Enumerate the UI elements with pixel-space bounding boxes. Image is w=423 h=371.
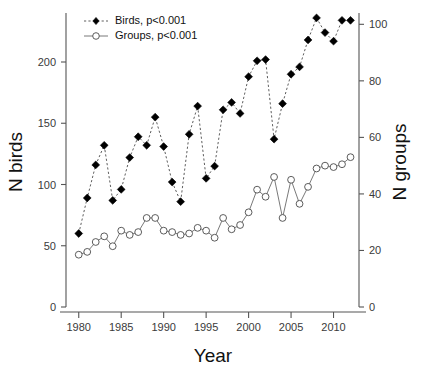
- data-point-birds: [279, 100, 287, 108]
- data-point-birds: [287, 70, 295, 78]
- data-point-groups: [126, 232, 133, 239]
- data-point-groups: [330, 164, 337, 171]
- data-point-birds: [100, 141, 108, 149]
- series-path-birds: [79, 18, 351, 234]
- data-point-groups: [237, 222, 244, 229]
- y-axis-right-tick-label: 0: [369, 301, 375, 313]
- data-point-groups: [220, 215, 227, 222]
- data-point-groups: [118, 227, 125, 234]
- y-axis-right-tick-label: 80: [369, 75, 381, 87]
- data-point-birds: [185, 130, 193, 138]
- x-axis-title: Year: [194, 345, 233, 366]
- data-point-birds: [321, 29, 329, 37]
- data-point-groups: [305, 183, 312, 190]
- y-axis-right-tick-label: 60: [369, 131, 381, 143]
- y-axis-left-ticks: 050100150200: [38, 56, 66, 313]
- legend-label-groups: Groups, p<0.001: [115, 29, 197, 41]
- data-point-birds: [211, 162, 219, 170]
- data-point-groups: [143, 215, 150, 222]
- data-point-birds: [126, 154, 134, 162]
- data-point-groups: [109, 243, 116, 250]
- data-point-groups: [194, 224, 201, 231]
- x-axis-tick-label: 2010: [321, 321, 345, 333]
- data-point-groups: [186, 230, 193, 237]
- data-point-groups: [322, 162, 329, 169]
- data-point-groups: [169, 229, 176, 236]
- data-point-groups: [296, 200, 303, 207]
- legend-entry-birds: Birds, p<0.001: [84, 14, 186, 26]
- x-axis-tick-label: 1990: [151, 321, 175, 333]
- data-point-birds: [270, 135, 278, 143]
- chart-figure: 050100150200 020406080100 19801985199019…: [0, 0, 423, 371]
- legend-entry-groups: Groups, p<0.001: [84, 29, 197, 41]
- data-point-birds: [219, 106, 227, 114]
- data-point-birds: [202, 174, 210, 182]
- data-point-birds: [347, 16, 355, 24]
- x-axis-ticks: 1980198519901995200020052010: [66, 312, 345, 333]
- data-point-groups: [101, 233, 108, 240]
- data-point-birds: [194, 102, 202, 110]
- data-point-groups: [177, 232, 184, 239]
- data-point-birds: [151, 113, 159, 121]
- x-axis-tick-label: 1985: [109, 321, 133, 333]
- data-point-groups: [84, 248, 91, 255]
- data-point-groups: [152, 215, 159, 222]
- data-point-groups: [228, 226, 235, 233]
- y-axis-left-tick-label: 0: [50, 301, 56, 313]
- data-point-birds: [330, 37, 338, 45]
- data-point-birds: [304, 36, 312, 44]
- data-point-groups: [347, 154, 354, 161]
- data-point-birds: [177, 198, 185, 206]
- data-point-birds: [338, 16, 346, 24]
- chart-plot-area: 050100150200 020406080100 19801985199019…: [0, 0, 423, 371]
- y-axis-right-tick-label: 40: [369, 188, 381, 200]
- y-axis-right-ticks: 020406080100: [359, 18, 387, 313]
- data-point-groups: [254, 186, 261, 193]
- y-axis-left-tick-label: 150: [38, 117, 56, 129]
- data-point-groups: [339, 161, 346, 168]
- data-point-groups: [279, 215, 286, 222]
- x-axis-tick-label: 2000: [236, 321, 260, 333]
- data-point-birds: [109, 197, 117, 205]
- data-point-birds: [75, 230, 83, 238]
- y-axis-right-title: N groups: [389, 123, 410, 200]
- data-point-birds: [92, 161, 100, 169]
- y-axis-left-title: N birds: [5, 132, 26, 192]
- y-axis-right-tick-label: 20: [369, 244, 381, 256]
- series-markers-birds: [75, 14, 355, 237]
- y-axis-left-tick-label: 200: [38, 56, 56, 68]
- data-point-groups: [75, 251, 82, 258]
- data-point-groups: [92, 239, 99, 246]
- data-point-groups: [211, 234, 218, 241]
- y-axis-left-tick-label: 50: [44, 240, 56, 252]
- data-point-groups: [135, 229, 142, 236]
- data-point-groups: [203, 227, 210, 234]
- data-point-birds: [245, 73, 253, 81]
- data-point-birds: [117, 186, 125, 194]
- data-point-birds: [160, 143, 168, 151]
- y-axis-right-tick-label: 100: [369, 18, 387, 30]
- x-axis-tick-label: 2005: [279, 321, 303, 333]
- series-line-birds: [79, 18, 351, 234]
- x-axis-tick-label: 1995: [194, 321, 218, 333]
- legend-swatch-marker-groups: [93, 33, 100, 40]
- data-point-birds: [253, 57, 261, 65]
- data-point-groups: [262, 193, 269, 200]
- data-point-birds: [228, 99, 236, 107]
- y-axis-left-tick-label: 100: [38, 179, 56, 191]
- legend-swatch-marker-birds: [93, 17, 99, 24]
- data-point-birds: [313, 14, 321, 22]
- legend-label-birds: Birds, p<0.001: [115, 14, 186, 26]
- data-point-birds: [83, 194, 91, 202]
- chart-legend: Birds, p<0.001 Groups, p<0.001: [84, 14, 197, 41]
- x-axis-tick-label: 1980: [66, 321, 90, 333]
- data-point-groups: [288, 176, 295, 183]
- data-point-birds: [168, 178, 176, 186]
- data-point-birds: [236, 110, 244, 118]
- data-point-birds: [262, 56, 270, 64]
- data-point-groups: [313, 165, 320, 172]
- data-point-groups: [271, 174, 278, 181]
- data-point-groups: [160, 227, 167, 234]
- data-point-groups: [245, 209, 252, 216]
